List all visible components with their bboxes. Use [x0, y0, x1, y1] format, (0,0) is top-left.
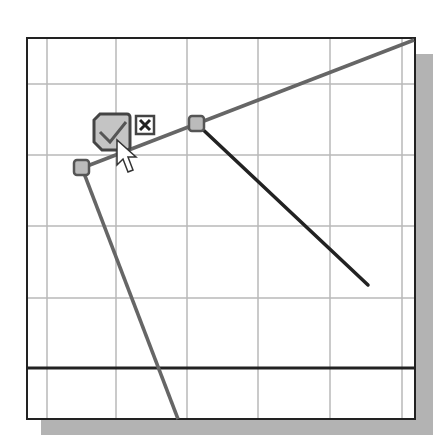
gray-line-left[interactable]	[82, 168, 178, 419]
endpoint-middle[interactable]	[189, 116, 204, 131]
endpoint-left[interactable]	[74, 160, 89, 175]
reject-button[interactable]	[136, 116, 154, 134]
accept-button[interactable]	[94, 114, 130, 150]
gray-line-top[interactable]	[82, 40, 414, 168]
grid	[28, 39, 414, 418]
dark-line-diagonal[interactable]	[197, 124, 368, 285]
sketch-overlay	[0, 0, 447, 448]
